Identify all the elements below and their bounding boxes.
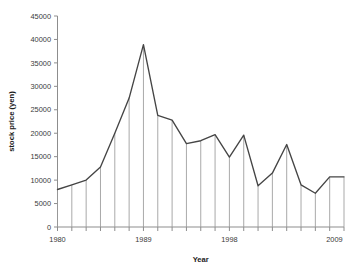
x-tick-label: 1998 <box>221 235 237 244</box>
y-axis-title: stock price (yen) <box>7 91 16 152</box>
x-tick-label: 2009 <box>326 235 342 244</box>
x-tick-label: 1989 <box>135 235 151 244</box>
x-axis-title: Year <box>193 255 209 264</box>
y-tick-label: 25000 <box>30 105 51 114</box>
y-tick-label: 30000 <box>30 82 51 91</box>
chart-background <box>0 0 352 270</box>
y-tick-label: 45000 <box>30 12 51 21</box>
x-axis-ticks <box>58 227 345 231</box>
y-tick-label: 5000 <box>35 199 51 208</box>
y-tick-label: 40000 <box>30 35 51 44</box>
chart-canvas: 0500010000150002000025000300003500040000… <box>0 0 352 270</box>
y-tick-label: 15000 <box>30 152 51 161</box>
stock-price-chart: 0500010000150002000025000300003500040000… <box>0 0 352 270</box>
x-tick-label: 1980 <box>49 235 65 244</box>
y-tick-label: 35000 <box>30 59 51 68</box>
y-tick-label: 10000 <box>30 176 51 185</box>
y-tick-label: 0 <box>47 223 51 232</box>
y-tick-label: 20000 <box>30 129 51 138</box>
